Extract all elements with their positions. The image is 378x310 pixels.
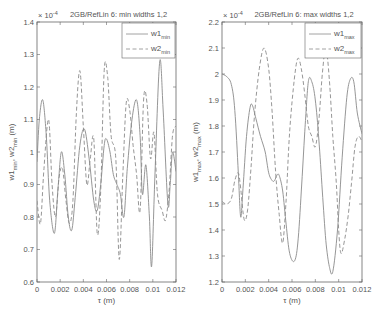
x-tick-label: 0.002 <box>236 285 255 294</box>
y-tick-label: 1.2 <box>209 278 219 287</box>
y-tick-label: 1 <box>30 148 34 157</box>
y-tick-label: 0.6 <box>24 278 34 287</box>
y-tick-label: 2.2 <box>209 18 219 27</box>
y-tick-label: 1.6 <box>209 174 219 183</box>
x-tick-label: 0.006 <box>283 285 302 294</box>
y-tick-label: 0.7 <box>24 245 34 254</box>
x-tick-label: 0.01 <box>146 285 161 294</box>
legend: w1minw2min <box>122 23 175 58</box>
chart-title: 2GB/RefLin 6: max widths 1,2 <box>254 10 353 19</box>
chart-title: 2GB/RefLin 6: min widths 1,2 <box>70 10 167 19</box>
series-line-w2max <box>222 48 362 254</box>
x-tick-label: 0.002 <box>51 285 70 294</box>
x-axis-label: τ (m) <box>98 296 116 305</box>
y-tick-label: 2.1 <box>209 44 219 53</box>
x-tick-label: 0.008 <box>120 285 139 294</box>
y-tick-label: 1.4 <box>209 226 219 235</box>
y-axis-label: w1max, w2max (m) <box>191 122 202 183</box>
x-axis-label: τ (m) <box>283 296 301 305</box>
y-tick-label: 1.5 <box>209 200 219 209</box>
y-tick-label: 1.9 <box>209 96 219 105</box>
right-plot-max-widths: 00.0020.0040.0060.0080.010.0121.21.31.41… <box>191 10 371 305</box>
x-tick-label: 0.008 <box>306 285 325 294</box>
y-tick-label: 1.2 <box>24 83 34 92</box>
left-plot-min-widths: 00.0020.0040.0060.0080.010.0120.60.70.80… <box>7 10 185 305</box>
y-tick-label: 2 <box>215 70 219 79</box>
y-multiplier: × 10-4 <box>223 10 243 20</box>
y-tick-label: 1.1 <box>24 115 34 124</box>
y-multiplier: × 10-4 <box>38 10 58 20</box>
x-tick-label: 0.006 <box>97 285 116 294</box>
x-tick-label: 0.004 <box>259 285 278 294</box>
axes-box <box>37 22 176 282</box>
x-tick-label: 0.012 <box>353 285 372 294</box>
legend: w1maxw2max <box>305 23 361 58</box>
x-tick-label: 0.012 <box>167 285 186 294</box>
y-axis-label: w1min, w2min (m) <box>7 123 18 181</box>
x-tick-label: 0 <box>220 285 224 294</box>
x-tick-label: 0.004 <box>74 285 93 294</box>
x-tick-label: 0 <box>35 285 39 294</box>
y-tick-label: 0.8 <box>24 213 34 222</box>
y-tick-label: 1.3 <box>24 50 34 59</box>
y-tick-label: 1.8 <box>209 122 219 131</box>
axes-box <box>222 22 362 282</box>
figure: 00.0020.0040.0060.0080.010.0120.60.70.80… <box>0 0 378 310</box>
y-tick-label: 1.4 <box>24 18 34 27</box>
series-line-w1min <box>37 60 176 267</box>
y-tick-label: 1.3 <box>209 252 219 261</box>
y-tick-label: 1.7 <box>209 148 219 157</box>
y-tick-label: 0.9 <box>24 180 34 189</box>
x-tick-label: 0.01 <box>331 285 346 294</box>
